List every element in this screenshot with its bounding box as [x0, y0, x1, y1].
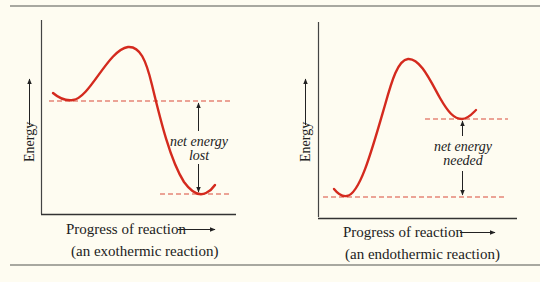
x-axis-label: Progress of reaction [66, 221, 186, 238]
caption-endothermic: (an endothermic reaction) [345, 246, 500, 263]
annotation-line1: net energy [422, 140, 504, 154]
net-energy-lost-label: net energy lost [160, 135, 238, 163]
annotation-line2: needed [422, 154, 504, 168]
caption-exothermic: (an exothermic reaction) [71, 243, 218, 260]
annotation-line2: lost [160, 149, 238, 163]
x-axis-label: Progress of reaction [343, 224, 463, 241]
exothermic-curve [53, 47, 215, 194]
y-axis-label: Energy [298, 122, 314, 162]
net-energy-needed-label: net energy needed [422, 140, 504, 168]
endothermic-panel [306, 22, 518, 233]
annotation-line1: net energy [160, 135, 238, 149]
exothermic-panel [30, 20, 237, 230]
endothermic-curve [334, 59, 476, 196]
y-axis-label: Energy [22, 122, 38, 162]
